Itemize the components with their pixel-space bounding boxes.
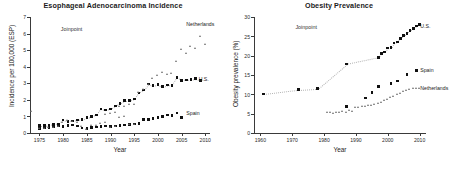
y-tick-label: 5 bbox=[14, 47, 26, 53]
data-point-netherlands bbox=[104, 113, 106, 115]
y-tick-label: 15 bbox=[238, 72, 250, 78]
x-axis-line bbox=[254, 133, 426, 134]
x-tick-label: 2010 bbox=[409, 137, 431, 143]
x-tick bbox=[63, 133, 64, 136]
data-point-u-s- bbox=[180, 79, 183, 82]
data-point-spain bbox=[152, 117, 155, 120]
plot-area-esophageal: 1975198019851990199520002005201001234567… bbox=[30, 17, 210, 133]
data-point-netherlands-early bbox=[80, 125, 82, 127]
joinpoint-trend-segment bbox=[346, 58, 378, 66]
data-point-netherlands bbox=[151, 77, 153, 79]
data-point-spain bbox=[157, 116, 160, 119]
data-point-netherlands-early bbox=[90, 124, 92, 126]
x-tick bbox=[111, 133, 112, 136]
y-tick bbox=[27, 50, 30, 51]
data-point-netherlands bbox=[194, 47, 196, 49]
data-point-spain bbox=[176, 112, 179, 115]
data-point-netherlands-early bbox=[38, 127, 40, 129]
data-point-u-s- bbox=[406, 32, 409, 35]
data-point-u-s- bbox=[114, 105, 117, 108]
data-point-netherlands bbox=[386, 98, 388, 100]
data-point-netherlands bbox=[392, 95, 394, 97]
data-point-spain bbox=[119, 124, 122, 127]
data-point-u-s- bbox=[399, 37, 402, 40]
data-point-u-s- bbox=[152, 84, 155, 87]
data-point-netherlands-early bbox=[52, 126, 54, 128]
x-tick-label: 1975 bbox=[28, 137, 50, 143]
y-tick bbox=[27, 17, 30, 18]
y-tick bbox=[27, 116, 30, 117]
plot-area-obesity: 196019701980199020002010051015202530Year… bbox=[254, 17, 426, 133]
x-tick bbox=[324, 133, 325, 136]
data-point-u-s- bbox=[123, 99, 126, 102]
data-point-joinpoint-anchor bbox=[30, 110, 32, 112]
y-tick-label: 7 bbox=[14, 14, 26, 20]
data-point-netherlands bbox=[161, 71, 163, 73]
joinpoint-annotation: Joinpoint bbox=[61, 26, 83, 32]
y-tick bbox=[251, 36, 254, 37]
x-tick-label: 2010 bbox=[194, 137, 216, 143]
data-point-netherlands-early bbox=[95, 124, 97, 126]
data-point-netherlands-early bbox=[109, 126, 111, 128]
data-point-netherlands bbox=[341, 110, 343, 112]
data-point-netherlands bbox=[109, 112, 111, 114]
y-tick-label: 20 bbox=[238, 53, 250, 59]
data-point-netherlands bbox=[408, 88, 410, 90]
data-point-netherlands bbox=[345, 111, 347, 113]
data-point-spain bbox=[390, 82, 393, 85]
data-point-u-s- bbox=[377, 56, 380, 59]
data-point-netherlands bbox=[412, 87, 414, 89]
data-point-netherlands bbox=[133, 103, 135, 105]
data-point-netherlands bbox=[142, 88, 144, 90]
series-label-netherlands: Netherlands bbox=[186, 21, 214, 27]
data-point-netherlands bbox=[364, 105, 366, 107]
data-point-netherlands-early bbox=[57, 125, 59, 127]
data-point-netherlands bbox=[170, 72, 172, 74]
x-tick-label: 1970 bbox=[281, 137, 303, 143]
y-tick bbox=[27, 133, 30, 134]
data-point-u-s- bbox=[171, 84, 174, 87]
data-point-netherlands-early bbox=[104, 121, 106, 123]
data-point-u-s- bbox=[396, 41, 399, 44]
data-point-u-s- bbox=[128, 99, 131, 102]
y-tick bbox=[251, 94, 254, 95]
y-tick bbox=[251, 114, 254, 115]
data-point-netherlands bbox=[185, 52, 187, 54]
data-point-netherlands bbox=[335, 111, 337, 113]
data-point-spain bbox=[71, 124, 74, 127]
data-point-netherlands-early bbox=[43, 127, 45, 129]
x-tick bbox=[134, 133, 135, 136]
data-point-spain bbox=[81, 127, 84, 130]
chart-title-obesity: Obesity Prevalence bbox=[226, 1, 452, 10]
x-tick bbox=[205, 133, 206, 136]
data-point-spain bbox=[76, 125, 79, 128]
data-point-u-s- bbox=[383, 51, 386, 54]
data-point-spain bbox=[147, 118, 150, 121]
data-point-netherlands bbox=[329, 111, 331, 113]
data-point-spain bbox=[345, 105, 348, 108]
x-tick-label: 1960 bbox=[249, 137, 271, 143]
data-point-u-s- bbox=[104, 109, 107, 112]
y-tick bbox=[27, 83, 30, 84]
data-point-netherlands-early bbox=[128, 123, 130, 125]
chart-panel-esophageal: Esophageal Adenocarcinoma Incidence 1975… bbox=[0, 0, 226, 175]
y-axis-title: Incidence per 100,000 (ESP) bbox=[8, 25, 15, 107]
y-tick-label: 0 bbox=[14, 130, 26, 136]
x-tick-label: 2000 bbox=[147, 137, 169, 143]
data-point-netherlands-early bbox=[76, 121, 78, 123]
x-axis-line bbox=[30, 133, 210, 134]
data-point-netherlands bbox=[415, 87, 417, 89]
chart-panel-obesity: Obesity Prevalence 196019701980199020002… bbox=[226, 0, 452, 175]
data-point-netherlands bbox=[156, 74, 158, 76]
x-tick-label: 1990 bbox=[345, 137, 367, 143]
data-point-u-s- bbox=[157, 83, 160, 86]
data-point-spain bbox=[396, 80, 399, 83]
series-label-spain: Spain bbox=[420, 67, 433, 73]
data-point-netherlands bbox=[348, 109, 350, 111]
data-point-netherlands bbox=[199, 35, 201, 37]
data-point-netherlands-early bbox=[85, 128, 87, 130]
data-point-spain bbox=[166, 114, 169, 117]
data-point-spain bbox=[62, 125, 65, 128]
data-point-netherlands bbox=[332, 112, 334, 114]
x-tick bbox=[292, 133, 293, 136]
